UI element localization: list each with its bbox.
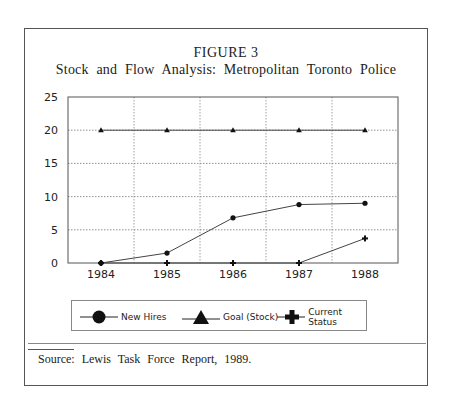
x-tick-label: 1986 [219,268,247,281]
plus-marker-icon [362,237,368,239]
source-note: Source: Lewis Task Force Report, 1989. [38,352,251,367]
y-axis-ticks: 0510152025 [44,91,58,270]
plus-marker-icon [277,307,305,327]
legend-item-new-hires: New Hires [80,301,167,332]
divider-line [28,343,426,344]
plus-marker-icon [230,262,236,264]
circle-marker-icon [362,201,367,206]
x-axis-ticks: 19841985198619871988 [87,268,379,281]
x-tick-label: 1985 [153,268,181,281]
legend-label: Goal (Stock) [223,312,278,322]
y-tick-label: 20 [44,124,58,137]
grid-lines [68,97,398,263]
circle-marker-icon [230,215,235,220]
plus-marker-icon [296,262,302,264]
series-line [101,238,365,263]
legend-label: Current Status [308,307,366,327]
series-line [101,203,365,263]
x-tick-label: 1987 [285,268,313,281]
legend-item-current-status: Current Status [277,301,366,332]
footnote-rule [28,349,74,350]
circle-marker-icon [164,250,169,255]
chart-legend: New Hires Goal (Stock) Current Status [71,300,367,331]
y-tick-label: 15 [44,157,58,170]
legend-label: New Hires [121,312,167,322]
x-tick-label: 1984 [87,268,115,281]
y-tick-label: 5 [51,224,58,237]
line-chart: 0510152025 19841985198619871988 [0,0,452,300]
circle-marker-icon [80,307,118,327]
y-tick-label: 0 [51,257,58,270]
plus-marker-icon [98,262,104,264]
plus-marker-icon [164,262,170,264]
y-tick-label: 10 [44,191,58,204]
legend-item-goal: Goal (Stock) [182,301,278,332]
y-tick-label: 25 [44,91,58,104]
triangle-marker-icon [182,307,220,327]
circle-marker-icon [296,202,301,207]
x-tick-label: 1988 [351,268,379,281]
plot-area-border [68,97,398,263]
